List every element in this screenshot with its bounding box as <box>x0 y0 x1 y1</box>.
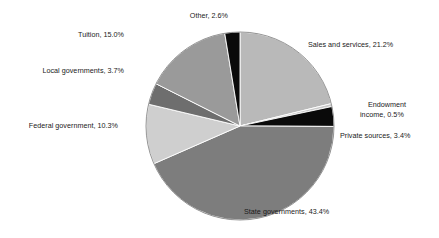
slice-label-state-governments: State governments, 43.4% <box>244 207 368 216</box>
slice-label-other: Other, 2.6% <box>140 11 228 20</box>
slice-label-private-sources: Private sources, 3.4% <box>340 131 438 140</box>
slice-label-federal-government: Federal government, 10.3% <box>4 121 118 130</box>
pie-slice-group <box>146 32 334 220</box>
slice-label-sales-and-services: Sales and services, 21.2% <box>308 40 434 49</box>
slice-label-local-governments: Local governments, 3.7% <box>18 66 124 75</box>
slice-label-endowment-income-line1: Endowment <box>368 100 424 109</box>
pie-chart-figure: Other, 2.6% Tuition, 15.0% Local governm… <box>0 0 439 238</box>
slice-label-endowment-income-line2: income, 0.5% <box>360 110 416 119</box>
slice-label-tuition: Tuition, 15.0% <box>42 30 124 39</box>
